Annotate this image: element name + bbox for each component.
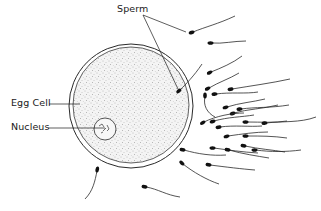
sperm-head bbox=[227, 87, 234, 92]
sperm-head bbox=[199, 120, 206, 126]
sperm-tail bbox=[210, 165, 255, 170]
nucleus-label: Nucleus bbox=[11, 121, 50, 132]
sperm-head bbox=[205, 162, 212, 167]
sperm-head bbox=[243, 120, 249, 124]
sperm-head bbox=[261, 121, 267, 125]
sperm-cell bbox=[208, 41, 247, 45]
sperm-cell bbox=[243, 134, 288, 138]
sperm-cell bbox=[203, 93, 215, 118]
sperm-head bbox=[95, 166, 100, 173]
sperm-tail bbox=[209, 73, 239, 88]
fertilization-diagram: Sperm Egg Cell Nucleus bbox=[0, 0, 321, 211]
sperm-head bbox=[224, 147, 231, 152]
sperm-tail bbox=[214, 148, 258, 153]
sperm-tail bbox=[183, 164, 219, 184]
sperm-cell bbox=[141, 184, 180, 197]
sperm-head bbox=[206, 70, 213, 76]
sperm-tail bbox=[241, 105, 289, 109]
sperm-tail bbox=[220, 126, 262, 127]
sperm-head bbox=[223, 134, 230, 139]
sperm-head bbox=[208, 41, 214, 45]
sperm-tail bbox=[232, 79, 290, 89]
sperm-cell bbox=[229, 105, 278, 116]
sperm-head bbox=[252, 148, 258, 152]
sperm-tail bbox=[193, 16, 235, 32]
sperm-tail bbox=[204, 113, 244, 122]
sperm-tail bbox=[266, 117, 316, 123]
sperm-tail bbox=[204, 97, 215, 117]
sperm-cell bbox=[188, 16, 235, 35]
sperm-head bbox=[203, 93, 207, 99]
sperm-head bbox=[210, 146, 216, 150]
sperm-head bbox=[204, 86, 211, 92]
sperm-cell bbox=[205, 162, 255, 170]
sperm-head bbox=[222, 105, 229, 110]
sperm-tail bbox=[211, 56, 242, 72]
sperm-tail bbox=[85, 171, 97, 199]
sperm-head bbox=[215, 125, 222, 130]
sperm-tail bbox=[212, 41, 246, 43]
sperm-tail bbox=[146, 187, 180, 197]
sperm-head bbox=[236, 107, 242, 111]
sperm-cell bbox=[211, 92, 258, 96]
egg-cytoplasm bbox=[73, 47, 189, 163]
sperm-cell bbox=[261, 117, 316, 125]
sperm-cell bbox=[206, 56, 242, 76]
sperm-tail bbox=[247, 136, 287, 138]
nucleus bbox=[94, 118, 116, 140]
sperm-head bbox=[211, 92, 217, 96]
sperm-cell bbox=[85, 166, 100, 199]
sperm-head bbox=[243, 134, 249, 138]
sperm-tail bbox=[227, 99, 265, 107]
sperm-cell bbox=[215, 125, 262, 130]
sperm-cell bbox=[178, 160, 219, 184]
egg-cell-label: Egg Cell bbox=[11, 97, 51, 108]
egg-cell bbox=[69, 44, 193, 168]
sperm-head bbox=[188, 30, 195, 35]
sperm-head bbox=[141, 184, 148, 189]
sperm-cell bbox=[227, 79, 290, 92]
sperm-head bbox=[179, 147, 186, 152]
sperm-head bbox=[240, 143, 247, 148]
sperm-tail bbox=[216, 92, 258, 94]
sperm-label: Sperm bbox=[117, 3, 148, 14]
sperm-tail bbox=[184, 150, 226, 155]
